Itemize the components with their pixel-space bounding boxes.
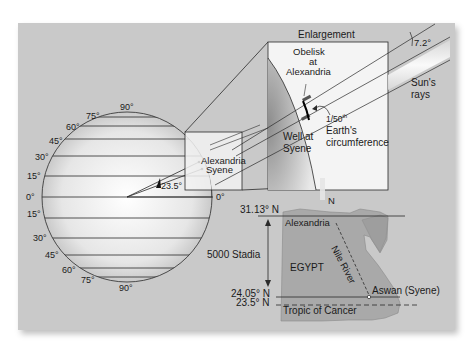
lat-label-90-top: 90° bbox=[120, 102, 134, 112]
sun-rays-label-2: rays bbox=[411, 89, 430, 100]
lat-label-0-right: 0° bbox=[216, 192, 225, 202]
enlargement-box: Enlargement Obelisk at Alexandria Well a… bbox=[215, 24, 450, 190]
arrow-down-icon bbox=[265, 280, 271, 287]
arrow-up-icon bbox=[265, 219, 271, 226]
lat-label-45-top: 45° bbox=[49, 136, 63, 146]
connector-top bbox=[185, 42, 268, 132]
north-label: N bbox=[328, 195, 335, 206]
tropic-label: Tropic of Cancer bbox=[283, 305, 357, 316]
zoom-box: Alexandria Syene bbox=[185, 125, 268, 197]
lat-label-15-bottom: 15° bbox=[27, 209, 41, 219]
north-arrow-icon bbox=[320, 178, 325, 200]
well-label-1: Well at bbox=[283, 131, 314, 142]
enlargement-title: Enlargement bbox=[298, 29, 355, 40]
city-alexandria: Alexandria bbox=[285, 217, 331, 228]
lat-label-90-bottom: 90° bbox=[119, 283, 133, 293]
lat-label-0-left: 0° bbox=[26, 192, 35, 202]
egypt-map: 31.13° N Alexandria 5000 Stadia EGYPT Ni… bbox=[207, 204, 440, 321]
country-label: EGYPT bbox=[290, 262, 324, 273]
city-aswan: Aswan (Syene) bbox=[372, 285, 440, 296]
lat-label-60-top: 60° bbox=[66, 122, 80, 132]
lat-label-60-bottom: 60° bbox=[62, 265, 76, 275]
lat-label-75-top: 75° bbox=[86, 111, 100, 121]
sun-rays-label-1: Sun's bbox=[411, 77, 436, 88]
lat-label-45-bottom: 45° bbox=[45, 250, 59, 260]
angle-label-7-2: 7.2° bbox=[414, 37, 431, 48]
eratosthenes-diagram: 90° 75° 60° 45° 30° 15° 0° 0° 15° 30° 45… bbox=[0, 0, 469, 350]
distance-label: 5000 Stadia bbox=[207, 249, 261, 260]
lat-label-75-bottom: 75° bbox=[81, 275, 95, 285]
point-label-syene: Syene bbox=[206, 164, 233, 175]
lat-label-15-top: 15° bbox=[27, 171, 41, 181]
arc-label-2: Earth's bbox=[326, 125, 357, 136]
lat-31-13-label: 31.13° N bbox=[240, 204, 279, 215]
lat-23-5-label: 23.5° N bbox=[236, 297, 269, 308]
obelisk-label-3: Alexandria bbox=[286, 66, 332, 77]
lat-label-30-top: 30° bbox=[35, 152, 49, 162]
aswan-marker bbox=[367, 295, 370, 298]
angle-label-23-5: 23.5° bbox=[161, 181, 183, 191]
well-label-2: Syene bbox=[283, 143, 312, 154]
arc-label-3: circumference bbox=[326, 137, 389, 148]
lat-label-30-bottom: 30° bbox=[33, 233, 47, 243]
